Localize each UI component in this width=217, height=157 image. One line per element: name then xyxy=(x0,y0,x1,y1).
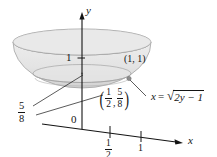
solid-of-revolution-figure: y x 1 0 1 2 1 5 8 (1, 1) ( 1 2 , 5 xyxy=(0,0,217,157)
origin-label: 0 xyxy=(71,114,77,125)
fraction-one-half: 1 2 xyxy=(105,88,112,109)
fraction-denominator: 2 xyxy=(105,151,112,157)
x-axis-arrowhead xyxy=(175,139,184,144)
radical-group: √ 2y − 1 xyxy=(167,90,204,103)
fraction-denominator: 8 xyxy=(18,114,25,125)
curve-point-marker xyxy=(127,76,131,80)
figure-canvas xyxy=(0,0,217,157)
x-axis xyxy=(42,124,183,145)
inner-center-marker xyxy=(81,72,83,74)
fraction-numerator: 1 xyxy=(105,88,112,98)
x-axis-label: x xyxy=(188,135,193,146)
paren-close-glyph: ) xyxy=(125,90,130,108)
equation-equals: = xyxy=(158,91,164,102)
y-axis-arrowhead xyxy=(79,12,84,20)
x-tick-label-half: 1 2 xyxy=(105,139,112,157)
point-label-one-one: (1, 1) xyxy=(124,54,146,64)
fraction-denominator: 2 xyxy=(105,100,112,110)
fraction-five-eighths: 5 8 xyxy=(18,101,25,124)
point-label-half-five-eighths: ( 1 2 , 5 8 ) xyxy=(98,88,131,109)
fraction-numerator: 1 xyxy=(105,139,112,149)
curve-equation-label: x = √ 2y − 1 xyxy=(151,90,204,103)
equation-lhs: x xyxy=(151,91,156,102)
fraction-denominator: 8 xyxy=(117,100,124,110)
fraction-one-half: 1 2 xyxy=(105,139,112,157)
y-tick-label-one: 1 xyxy=(66,52,72,63)
point-label-comma: , xyxy=(113,98,116,109)
y-axis-label: y xyxy=(86,5,91,16)
radicand: 2y − 1 xyxy=(173,90,204,103)
left-value-label: 5 8 xyxy=(18,101,25,124)
leader-equation xyxy=(130,80,146,96)
paren-open-glyph: ( xyxy=(99,90,104,108)
fraction-five-eighths: 5 8 xyxy=(117,88,124,109)
x-tick-label-one: 1 xyxy=(138,143,143,153)
fraction-numerator: 5 xyxy=(117,88,124,98)
fraction-numerator: 5 xyxy=(18,101,25,112)
